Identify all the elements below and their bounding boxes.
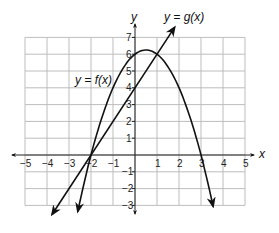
y-axis-label: y — [130, 10, 138, 24]
label-f: y = f(x) — [74, 73, 112, 87]
svg-text:2: 2 — [126, 116, 132, 127]
svg-text:5: 5 — [243, 158, 249, 169]
svg-text:4: 4 — [221, 158, 227, 169]
svg-text:−5: −5 — [20, 158, 32, 169]
svg-text:−3: −3 — [122, 200, 134, 211]
svg-text:7: 7 — [126, 32, 132, 43]
svg-text:2: 2 — [177, 158, 183, 169]
x-axis-label: x — [258, 147, 266, 161]
svg-text:−2: −2 — [122, 183, 134, 194]
svg-text:4: 4 — [126, 82, 132, 93]
svg-text:5: 5 — [126, 66, 132, 77]
svg-text:1: 1 — [126, 133, 132, 144]
svg-text:−1: −1 — [122, 166, 134, 177]
svg-text:−4: −4 — [42, 158, 54, 169]
svg-text:−1: −1 — [108, 158, 120, 169]
svg-text:1: 1 — [155, 158, 161, 169]
label-g: y = g(x) — [163, 10, 204, 24]
svg-text:−3: −3 — [64, 158, 76, 169]
coordinate-plane: −5−4−3−2−1123457654321−1−2−3 y = f(x) y … — [0, 0, 279, 233]
